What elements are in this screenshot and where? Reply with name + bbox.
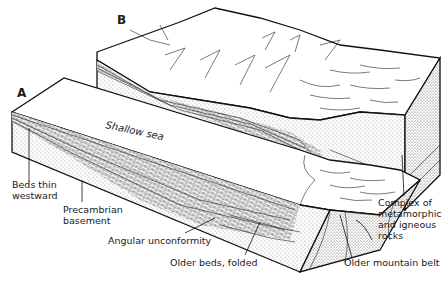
- complex-label-line2: metamorphic: [378, 208, 442, 219]
- beds-thin-label-line2: westward: [12, 190, 58, 201]
- precambrian-label-line1: Precambrian: [63, 204, 123, 215]
- unconformity-label: Angular unconformity: [108, 235, 212, 246]
- precambrian-label-line2: basement: [63, 215, 111, 226]
- block-b-label: B: [117, 13, 126, 27]
- block-diagram: B A Shallow sea Beds thin westward Preca…: [0, 0, 448, 281]
- older-beds-label: Older beds, folded: [170, 257, 258, 268]
- block-a-label: A: [17, 86, 27, 100]
- mountain-belt-label: Older mountain belt: [344, 257, 440, 268]
- complex-label-line3: and igneous: [378, 219, 436, 230]
- complex-label-line4: rocks: [378, 230, 403, 241]
- beds-thin-label-line1: Beds thin: [12, 179, 57, 190]
- complex-label-line1: Complex of: [378, 197, 433, 208]
